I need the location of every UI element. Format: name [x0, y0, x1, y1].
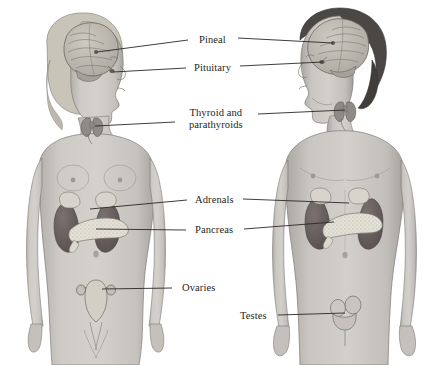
label-adrenals: Adrenals: [195, 194, 234, 206]
adrenal-right-male: [349, 188, 370, 204]
label-testes: Testes: [240, 310, 267, 322]
male-navel: [342, 252, 347, 258]
ovary-left: [77, 285, 86, 295]
anatomy-illustration: [0, 0, 433, 365]
ovary-right: [107, 285, 116, 295]
male-nipple-right: [375, 174, 380, 179]
label-pituitary: Pituitary: [194, 62, 231, 74]
label-ovaries: Ovaries: [182, 282, 215, 294]
female-navel: [93, 251, 98, 258]
female-nipple-right: [118, 178, 123, 183]
female-nipple-left: [71, 178, 76, 183]
male-nipple-left: [311, 174, 316, 179]
label-thyroid: Thyroid and parathyroids: [189, 107, 243, 130]
testis-right: [345, 296, 361, 314]
endocrine-diagram: PinealPituitaryThyroid and parathyroidsA…: [0, 0, 433, 365]
adrenal-right-female: [96, 192, 117, 208]
label-pancreas: Pancreas: [195, 224, 233, 236]
label-pineal: Pineal: [199, 34, 226, 46]
female-torso: [39, 134, 154, 365]
